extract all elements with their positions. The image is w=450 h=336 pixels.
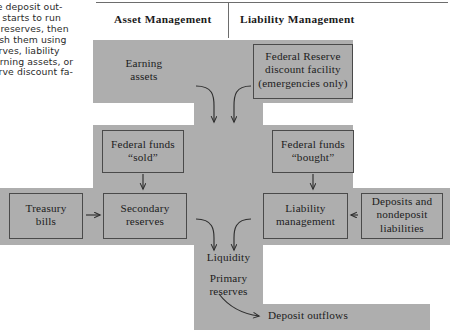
body-text-line-4: lenish them using	[0, 35, 92, 46]
header-asset-management: Asset Management	[114, 13, 212, 25]
body-text-line-5: eserves, liability	[0, 46, 92, 57]
cutout-lower-left	[0, 245, 194, 336]
header-divider-rule	[228, 2, 229, 38]
label-federal-funds-sold: Federal funds “sold”	[102, 138, 184, 165]
cutout-upper-midright	[263, 103, 389, 125]
label-deposit-outflows: Deposit outflows	[268, 309, 398, 322]
label-treasury-bills: Treasury bills	[9, 202, 83, 229]
cutout-bottom-right	[430, 304, 450, 336]
cutout-bottom-strip	[194, 330, 430, 336]
label-liquidity: Liquidity	[191, 251, 266, 264]
label-federal-reserve-discount: Federal Reserve discount facility (emerg…	[253, 50, 353, 90]
label-deposits-nondeposit: Deposits and nondeposit liabilities	[361, 195, 443, 235]
body-text-line-7: eserve discount fa-	[0, 67, 92, 78]
label-federal-funds-bought: Federal funds “bought”	[272, 138, 354, 165]
label-primary-reserves: Primary reserves	[191, 272, 266, 299]
cutout-left-upper	[0, 103, 93, 188]
diagram-page: ndle deposit out- ank starts to run ary …	[0, 0, 450, 336]
body-text-column: ndle deposit out- ank starts to run ary …	[0, 2, 92, 78]
header-top-rule	[96, 2, 448, 3]
cutout-lower-right	[263, 245, 450, 304]
label-liability-management: Liability management	[261, 202, 350, 229]
cutout-upper-midleft	[93, 103, 194, 125]
label-secondary-reserves: Secondary reserves	[103, 202, 187, 229]
header-liability-management: Liability Management	[240, 13, 355, 25]
label-earning-assets: Earning assets	[99, 57, 189, 84]
grey-spine-upper	[194, 103, 263, 125]
